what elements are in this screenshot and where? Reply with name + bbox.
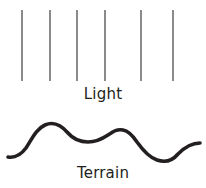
light-label: Light [0,87,206,102]
terrain-label: Terrain [0,166,206,181]
light-rays-group [22,10,173,81]
light-terrain-diagram: Light Terrain [0,0,206,188]
terrain-profile-curve [8,124,200,162]
